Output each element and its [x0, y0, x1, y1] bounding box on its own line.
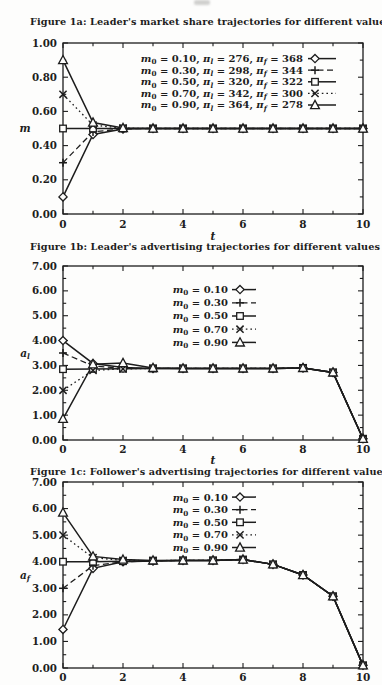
figure-1c-plot: 02468100.001.002.003.004.005.006.007.00a… — [0, 478, 382, 685]
page-number-smudge — [194, 0, 210, 5]
legend-entry-label: m0 = 0.90 — [173, 337, 228, 350]
y-tick-label: 5.00 — [32, 309, 57, 321]
y-tick-label: 1.00 — [32, 37, 57, 49]
y-tick-label: 0.60 — [32, 105, 57, 117]
x-tick-label: 2 — [119, 671, 126, 683]
legend-entry-label: m0 = 0.50 — [173, 310, 228, 323]
figure-1a-plot: 02468100.000.200.400.600.801.00tmm0 = 0.… — [0, 36, 382, 242]
series-line-square — [63, 368, 363, 439]
legend: m0 = 0.10m0 = 0.30m0 = 0.50m0 = 0.70m0 =… — [173, 284, 256, 350]
x-tick-label: 8 — [299, 671, 306, 683]
x-tick-label: 4 — [179, 443, 186, 455]
y-tick-label: 5.00 — [32, 529, 57, 541]
x-tick-label: 0 — [59, 443, 66, 455]
legend-entry-label: m0 = 0.70 — [173, 324, 228, 337]
x-tick-label: 10 — [356, 443, 371, 455]
legend-entry-label: m0 = 0.70 — [173, 529, 228, 542]
x-tick-label: 8 — [299, 218, 306, 230]
y-axis-label: m — [19, 122, 30, 134]
scanned-paper-page: Figure 1a: Leader's market share traject… — [0, 0, 382, 685]
x-tick-label: 4 — [179, 218, 186, 230]
y-tick-label: 0.00 — [32, 434, 57, 446]
x-tick-label: 10 — [356, 671, 371, 683]
x-tick-label: 6 — [239, 443, 246, 455]
y-tick-label: 0.20 — [32, 173, 57, 185]
x-tick-label: 6 — [239, 218, 246, 230]
y-tick-label: 0.00 — [32, 208, 57, 220]
x-tick-label: 10 — [356, 218, 371, 230]
x-axis-label: t — [211, 454, 216, 466]
series-line-diamond — [63, 560, 363, 666]
legend-entry-label: m0 = 0.90, πl = 364, πf = 278 — [141, 99, 303, 112]
legend-entry-label: m0 = 0.30 — [173, 504, 228, 517]
y-axis-label: af — [20, 569, 32, 583]
series-line-triangle — [63, 363, 363, 439]
y-tick-label: 6.00 — [32, 284, 57, 296]
legend: m0 = 0.10m0 = 0.30m0 = 0.50m0 = 0.70m0 =… — [173, 492, 256, 556]
y-tick-label: 1.00 — [32, 635, 57, 647]
x-tick-label: 6 — [239, 671, 246, 683]
x-tick-label: 4 — [179, 671, 186, 683]
y-tick-label: 0.80 — [32, 71, 57, 83]
y-tick-label: 7.00 — [32, 478, 57, 488]
series-line-diamond — [63, 129, 363, 197]
series-lines — [63, 341, 363, 439]
y-tick-label: 4.00 — [32, 555, 57, 567]
x-tick-label: 8 — [299, 443, 306, 455]
figure-1b-plot: 02468100.001.002.003.004.005.006.007.00t… — [0, 256, 382, 466]
series-line-square — [63, 560, 363, 666]
x-tick-label: 2 — [119, 443, 126, 455]
y-tick-label: 6.00 — [32, 502, 57, 514]
y-tick-label: 4.00 — [32, 334, 57, 346]
y-tick-label: 1.00 — [32, 409, 57, 421]
legend-entry-label: m0 = 0.30 — [173, 297, 228, 310]
legend: m0 = 0.10, πl = 276, πf = 368m0 = 0.30, … — [141, 53, 336, 113]
figure-1a-caption: Figure 1a: Leader's market share traject… — [30, 16, 378, 30]
series-line-diamond — [63, 341, 363, 439]
series-line-plus — [63, 129, 363, 163]
legend-entry-label: m0 = 0.10 — [173, 284, 228, 297]
x-tick-label: 0 — [59, 671, 66, 683]
x-tick-label: 0 — [59, 218, 66, 230]
figure-1b-caption: Figure 1b: Leader's advertising trajecto… — [30, 241, 378, 255]
legend-entry-label: m0 = 0.90 — [173, 542, 228, 555]
y-tick-label: 3.00 — [32, 359, 57, 371]
y-tick-label: 2.00 — [32, 384, 57, 396]
x-tick-label: 2 — [119, 218, 126, 230]
legend-entry-label: m0 = 0.50 — [173, 517, 228, 530]
series-line-x — [63, 368, 363, 439]
legend-entry-label: m0 = 0.10 — [173, 492, 228, 505]
y-axis-label: al — [20, 347, 30, 361]
y-tick-label: 0.40 — [32, 139, 57, 151]
series-line-plus — [63, 560, 363, 666]
y-tick-label: 0.00 — [32, 662, 57, 674]
y-tick-label: 7.00 — [32, 260, 57, 272]
series-markers — [59, 336, 368, 442]
y-tick-label: 3.00 — [32, 582, 57, 594]
y-tick-label: 2.00 — [32, 608, 57, 620]
